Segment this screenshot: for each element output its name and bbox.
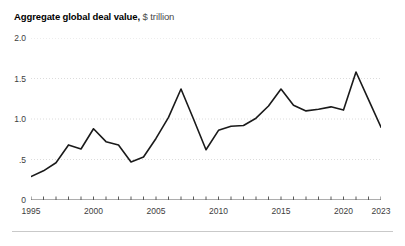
y-axis-tick-label: 2.0	[14, 33, 26, 43]
y-axis-tick-label: 1.0	[14, 114, 26, 124]
x-axis-tick-label: 2023	[372, 206, 391, 216]
chart-title: Aggregate global deal value, $ trillion	[14, 11, 174, 23]
gridlines	[31, 38, 381, 160]
y-axis-tick-label: 1.5	[14, 74, 26, 84]
chart-title-main: Aggregate global deal value,	[14, 11, 140, 22]
x-axis-minor-ticks	[31, 197, 381, 201]
footer-divider	[12, 231, 393, 232]
x-axis-tick-label: 2005	[147, 206, 166, 216]
line-chart-svg	[31, 38, 381, 200]
x-axis-tick-label: 2015	[272, 206, 291, 216]
chart-container: Aggregate global deal value, $ trillion …	[0, 0, 405, 246]
chart-title-units: $ trillion	[140, 11, 174, 22]
y-axis-tick-label: 0	[21, 195, 26, 205]
x-axis-tick-label: 2020	[334, 206, 353, 216]
x-axis-tick-label: 2010	[209, 206, 228, 216]
y-axis-tick-label: .5	[19, 155, 26, 165]
x-axis-tick-label: 1995	[22, 206, 41, 216]
plot-area	[31, 38, 381, 200]
data-series-line	[31, 72, 381, 176]
x-axis-labels: 1995200020052010201520202023	[0, 206, 405, 222]
x-axis-tick-label: 2000	[84, 206, 103, 216]
